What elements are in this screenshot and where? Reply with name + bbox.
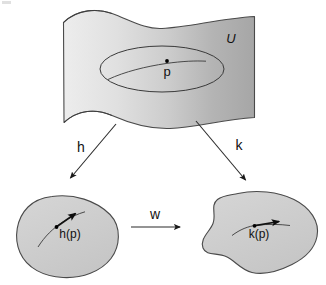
manifold-chart-diagram: p U h k h(p)	[0, 0, 326, 285]
transition-arrow-w-label: w	[149, 206, 161, 222]
left-point-dot	[55, 225, 59, 229]
wavy-manifold-surface	[64, 10, 255, 128]
right-chart-domain-blob: k(p)	[202, 192, 317, 274]
diagram-canvas: p U h k h(p)	[0, 0, 326, 285]
map-arrow-k: k	[196, 121, 246, 180]
point-p-dot	[165, 59, 169, 63]
domain-label-U: U	[226, 31, 236, 46]
right-point-label: k(p)	[249, 227, 270, 241]
map-arrow-h: h	[71, 124, 117, 178]
left-point-label: h(p)	[59, 227, 80, 241]
transition-arrow-w: w	[131, 206, 180, 227]
point-p-label: p	[163, 64, 170, 79]
scan-artifact-speck	[2, 1, 11, 4]
map-arrow-h-label: h	[77, 139, 85, 155]
left-chart-domain-blob: h(p)	[17, 196, 119, 278]
map-arrow-k-label: k	[236, 137, 244, 153]
